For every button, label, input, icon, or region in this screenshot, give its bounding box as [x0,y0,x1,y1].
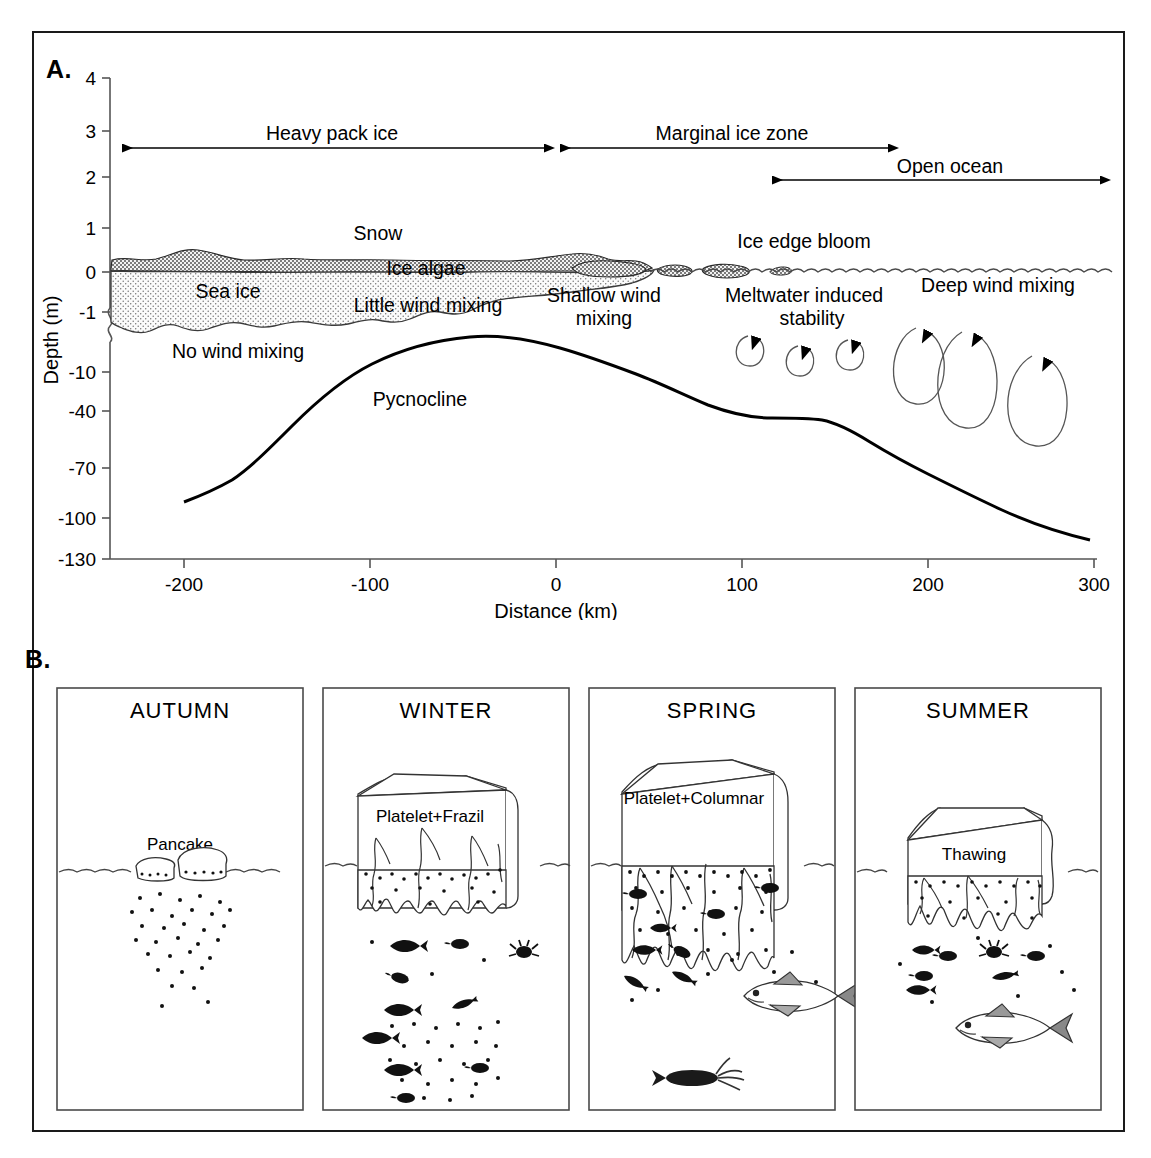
ytick-m130: -130 [58,549,96,570]
figure-root: A. B. [0,0,1151,1158]
season-title-winter: WINTER [400,698,493,723]
eddy-small-group [736,336,863,376]
annot-ice-edge-bloom: Ice edge bloom [737,230,870,252]
season-panel-autumn: AUTUMN Pancake [57,688,303,1110]
season-title-autumn: AUTUMN [130,698,230,723]
ice-label-thawing: Thawing [942,845,1006,864]
ytick-2: 2 [85,167,96,188]
season-panel-spring: SPRING Platelet+Columnar [589,688,860,1110]
annot-sea-ice: Sea ice [195,280,260,302]
x-axis: -200 -100 0 100 200 300 Distance (km) [110,559,1110,620]
annot-ice-algae: Ice algae [386,257,465,279]
ytick-0: 0 [85,262,96,283]
xtick-0: 0 [551,574,562,595]
ytick-m70: -70 [69,458,96,479]
annot-little-wind-mixing: Little wind mixing [354,294,502,316]
panel-a-svg: 4 3 2 1 0 -1 -10 -40 -70 -100 -130 Depth… [32,40,1125,620]
pancake-floe-left [136,858,175,881]
xtick-300: 300 [1078,574,1110,595]
zone-label-open-ocean: Open ocean [897,155,1003,177]
pycnocline-curve [184,336,1090,540]
ytick-m10: -10 [69,362,96,383]
pancake-floe-right [178,848,227,881]
snow-layer [111,250,652,274]
xtick-200: 200 [912,574,944,595]
panel-b-svg: AUTUMN Pancake [32,660,1125,1130]
y-axis-title: Depth (m) [40,296,62,385]
ytick-1: 1 [85,218,96,239]
ice-label-platelet-columnar: Platelet+Columnar [624,789,765,808]
annot-pycnocline: Pycnocline [373,388,467,410]
zone-label-marginal-ice-zone: Marginal ice zone [656,122,809,144]
xtick-100: 100 [726,574,758,595]
season-title-summer: SUMMER [926,698,1030,723]
annot-deep-wind-mixing: Deep wind mixing [921,274,1075,296]
panel-b-seasons: AUTUMN Pancake [32,660,1125,1130]
annot-meltwater-stability-line2: stability [779,307,844,329]
eddy-large-group [893,328,1067,446]
ytick-m100: -100 [58,508,96,529]
annot-shallow-wind-mixing-line1: Shallow wind [547,284,661,306]
zone-heavy-pack-ice: Heavy pack ice [122,122,544,148]
ytick-4: 4 [85,68,96,89]
season-title-spring: SPRING [667,698,757,723]
season-panel-summer: SUMMER Thawing [855,688,1101,1110]
ytick-3: 3 [85,121,96,142]
ice-label-platelet-frazil: Platelet+Frazil [376,807,484,826]
zone-marginal-ice-zone: Marginal ice zone [560,122,888,148]
xtick-m100: -100 [351,574,389,595]
ytick-m1: -1 [79,302,96,323]
y-axis: 4 3 2 1 0 -1 -10 -40 -70 -100 -130 Depth… [40,68,112,570]
zone-label-heavy-pack-ice: Heavy pack ice [266,122,398,144]
season-panel-winter: WINTER Platelet+Frazil [323,688,570,1110]
panel-a-cross-section: 4 3 2 1 0 -1 -10 -40 -70 -100 -130 Depth… [32,40,1125,620]
annot-snow: Snow [354,222,404,244]
xtick-m200: -200 [165,574,203,595]
ytick-m40: -40 [69,401,96,422]
annot-shallow-wind-mixing-line2: mixing [576,307,632,329]
annot-no-wind-mixing: No wind mixing [172,340,304,362]
annot-meltwater-stability-line1: Meltwater induced [725,284,883,306]
x-axis-title: Distance (km) [494,600,617,620]
zone-open-ocean: Open ocean [772,155,1100,180]
